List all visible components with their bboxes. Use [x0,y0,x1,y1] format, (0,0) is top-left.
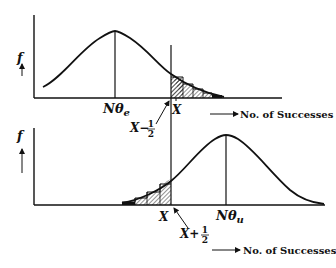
bottom-axis-caption: No. of Successes [243,245,336,256]
top-x-label: X [171,103,182,117]
bottom-pointer-label: X+ [179,227,199,241]
bottom-x-label: X [158,210,169,224]
top-mean-label: Nθe [102,101,130,118]
top-pointer-label: X− [129,121,149,135]
bottom-mean-label: Nθu [215,208,244,225]
bottom-pointer-arrow [174,208,188,228]
bottom-pointer-frac-num: 1 [202,225,208,235]
top-y-label: f [16,50,25,65]
bottom-y-label: f [16,128,25,143]
bottom-panel: f X Nθu X+ 1 2 No. of Successes [16,128,336,256]
top-pointer-frac-num: 1 [148,119,154,129]
bottom-pointer-frac-den: 2 [202,235,208,245]
top-pointer-frac-den: 2 [148,129,154,139]
bottom-normal-curve [122,135,324,204]
top-normal-curve [43,31,224,97]
top-axis-caption: No. of Successes [240,109,334,120]
top-pointer-arrow [156,101,169,124]
binomial-confidence-diagram: f Nθe X X− 1 2 No. of Successes [0,0,336,268]
